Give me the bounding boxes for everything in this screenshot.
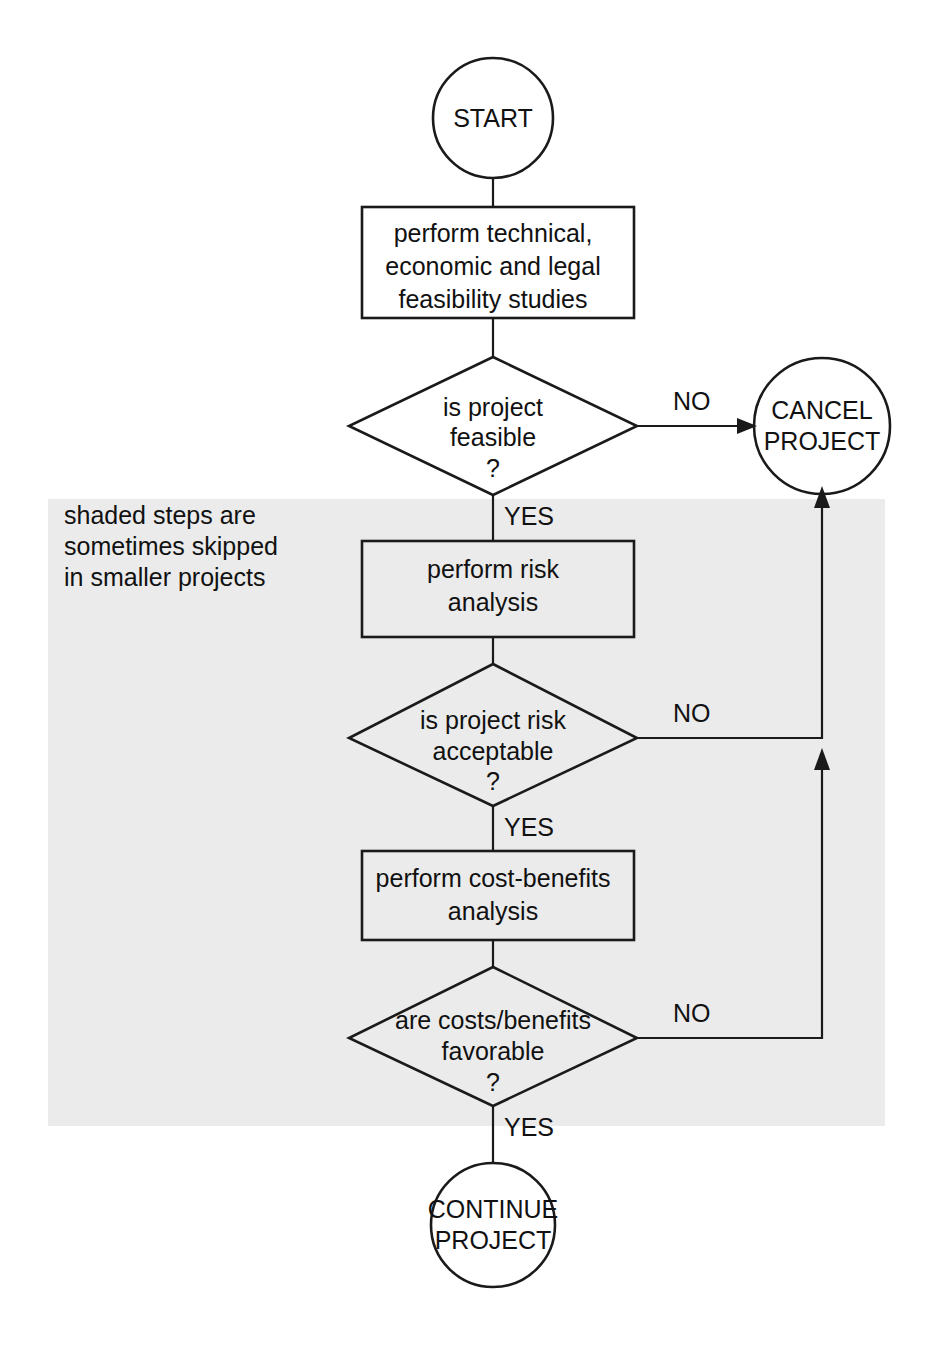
process-risk-analysis-line2: analysis bbox=[448, 588, 538, 616]
process-cost-benefits-analysis-line1: perform cost-benefits bbox=[376, 864, 611, 892]
decision-are-costs-benefits-favorable-line1: are costs/benefits bbox=[395, 1006, 591, 1034]
decision-are-costs-benefits-favorable-line2: favorable bbox=[442, 1037, 545, 1065]
terminator-continue-project-line1: CONTINUE bbox=[428, 1195, 559, 1223]
edge-label-yes-2: YES bbox=[504, 813, 554, 841]
terminator-continue-project[interactable] bbox=[431, 1163, 555, 1287]
note-line-3: in smaller projects bbox=[64, 563, 265, 591]
edge-label-no-3: NO bbox=[673, 999, 711, 1027]
terminator-cancel-project-line1: CANCEL bbox=[771, 396, 873, 424]
decision-is-project-feasible-line3: ? bbox=[486, 454, 500, 482]
note-line-2: sometimes skipped bbox=[64, 532, 278, 560]
edge-label-no-2: NO bbox=[673, 699, 711, 727]
decision-is-project-risk-acceptable-line3: ? bbox=[486, 767, 500, 795]
flowchart-canvas: START perform technical, economic and le… bbox=[0, 0, 940, 1372]
process-risk-analysis-line1: perform risk bbox=[427, 555, 559, 583]
terminator-start-label: START bbox=[453, 104, 533, 132]
note-line-1: shaded steps are bbox=[64, 501, 256, 529]
process-feasibility-studies-line1: perform technical, bbox=[394, 219, 593, 247]
process-feasibility-studies-line2: economic and legal bbox=[385, 252, 600, 280]
edge-label-no-1: NO bbox=[673, 387, 711, 415]
decision-is-project-risk-acceptable-line1: is project risk bbox=[420, 706, 566, 734]
decision-is-project-risk-acceptable-line2: acceptable bbox=[433, 737, 554, 765]
edge-label-yes-3: YES bbox=[504, 1113, 554, 1141]
terminator-cancel-project[interactable] bbox=[754, 358, 890, 494]
arrowhead-rail-to-cancel bbox=[814, 486, 830, 508]
terminator-cancel-project-line2: PROJECT bbox=[764, 427, 881, 455]
decision-are-costs-benefits-favorable-line3: ? bbox=[486, 1068, 500, 1096]
flowchart-svg: START perform technical, economic and le… bbox=[0, 0, 940, 1372]
terminator-continue-project-line2: PROJECT bbox=[435, 1226, 552, 1254]
process-feasibility-studies-line3: feasibility studies bbox=[399, 285, 588, 313]
decision-is-project-feasible-line1: is project bbox=[443, 393, 543, 421]
edge-label-yes-1: YES bbox=[504, 502, 554, 530]
decision-is-project-feasible-line2: feasible bbox=[450, 423, 536, 451]
process-cost-benefits-analysis-line2: analysis bbox=[448, 897, 538, 925]
